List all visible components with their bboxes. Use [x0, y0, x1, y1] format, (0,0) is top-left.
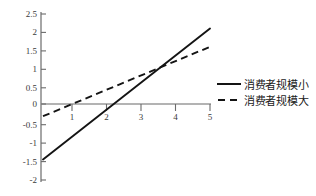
legend-item-solid[interactable]: 消费者规模小 — [216, 76, 316, 92]
x-tick-label: 2 — [104, 113, 109, 122]
legend-solid-line-icon — [216, 79, 242, 89]
y-tick-label: -0.5 — [8, 120, 37, 129]
y-tick-label: -1 — [8, 139, 37, 148]
legend: 消费者规模小 消费者规模大 — [216, 76, 316, 108]
legend-label: 消费者规模小 — [244, 76, 308, 92]
legend-label: 消费者规模大 — [244, 92, 308, 108]
caption — [0, 187, 316, 196]
line-chart: 2.5 2 1.5 1 0.5 0 -0.5 -1 -1.5 -2 1 2 3 … — [0, 0, 316, 196]
y-tick-label: 2 — [8, 28, 37, 37]
y-tick-label: -1.5 — [8, 157, 37, 166]
y-tick-marks — [41, 14, 46, 180]
y-tick-label: 0.5 — [8, 83, 37, 92]
x-tick-label: 1 — [70, 113, 75, 122]
series-line-dashed — [43, 47, 210, 116]
series-line-solid — [43, 29, 210, 160]
legend-dashed-line-icon — [216, 95, 242, 105]
y-tick-label: -2 — [8, 176, 37, 185]
y-tick-label: 1.5 — [8, 46, 37, 55]
y-tick-label: 1 — [8, 65, 37, 74]
x-tick-label: 4 — [173, 113, 178, 122]
y-tick-label: 2.5 — [8, 10, 37, 19]
y-tick-label: 0 — [8, 100, 37, 109]
x-tick-marks — [72, 104, 210, 111]
legend-item-dashed[interactable]: 消费者规模大 — [216, 92, 316, 108]
x-tick-label: 5 — [208, 113, 213, 122]
x-tick-label: 3 — [139, 113, 144, 122]
